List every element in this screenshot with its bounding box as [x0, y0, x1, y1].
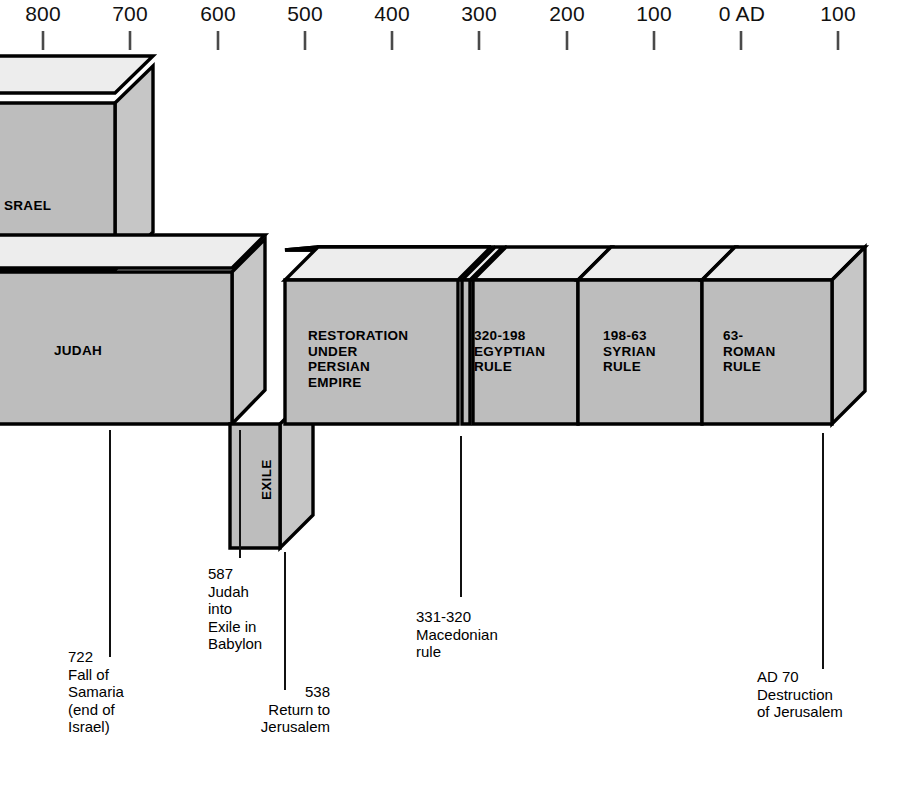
annotation-return-to-jerusalem: 538 Return to Jerusalem	[140, 683, 330, 736]
annotation-judah-into-exile: 587 Judah into Exile in Babylon	[208, 565, 262, 653]
axis-tick-label-100bc: 100	[636, 2, 672, 26]
axis-tick-label-100ad: 100	[820, 2, 856, 26]
exile-block-label: EXILE	[259, 459, 275, 500]
axis-tick-label-600: 600	[200, 2, 236, 26]
axis-tick-label-400: 400	[374, 2, 410, 26]
axis-tick-label-0ad: 0 AD	[719, 2, 765, 26]
roman-rule-block-label: 63- ROMAN RULE	[723, 328, 776, 375]
axis-tick-label-700: 700	[112, 2, 148, 26]
axis-tick-label-500: 500	[287, 2, 323, 26]
annotation-destruction-of-jerusalem: AD 70 Destruction of Jerusalem	[757, 668, 843, 721]
axis-tick-label-200: 200	[549, 2, 585, 26]
judah-block	[0, 235, 265, 424]
syrian-rule-block-label: 198-63 SYRIAN RULE	[603, 328, 656, 375]
egyptian-rule-block-label: 320-198 EGYPTIAN RULE	[474, 328, 545, 375]
israel-block-label: SRAEL	[4, 198, 51, 214]
restoration-block-label: RESTORATION UNDER PERSIAN EMPIRE	[308, 328, 408, 390]
annotation-fall-of-samaria: 722 Fall of Samaria (end of Israel)	[68, 648, 124, 736]
axis-tick-label-300: 300	[461, 2, 497, 26]
judah-block-label: JUDAH	[54, 343, 102, 359]
annotation-macedonian-rule: 331-320 Macedonian rule	[416, 608, 498, 661]
axis-tick-label-800: 800	[25, 2, 61, 26]
axis-tickmarks	[43, 31, 838, 50]
timeline-diagram: .front { fill: #bdbdbd; stroke: #000; st…	[0, 0, 919, 788]
